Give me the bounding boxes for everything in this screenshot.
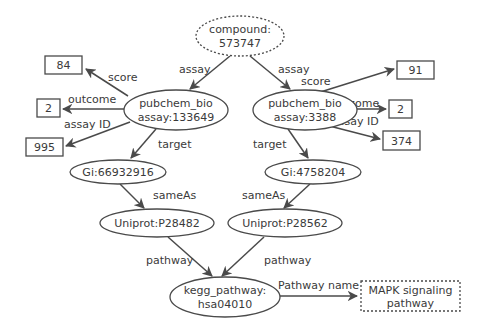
left-uniprot-label: Uniprot:P28482 [114,217,200,230]
left-assay-id-value: 995 [34,141,55,154]
label-score-right: score [301,75,331,88]
node-right-score: 91 [397,61,434,79]
right-score-value: 91 [409,64,423,77]
right-assay-id: assay:3388 [274,111,336,124]
label-pathway-left: pathway [146,254,194,267]
node-pathway-name: MAPK signaling pathway [361,281,460,311]
compound-id: 573747 [219,37,261,50]
label-assay-id-left: assay ID [64,118,111,131]
node-left-assay-id: 995 [26,138,63,156]
node-kegg-pathway: kegg_pathway: hsa04010 [170,277,280,317]
label-same-as-left: sameAs [153,189,196,202]
right-outcome-value: 2 [397,103,404,116]
node-left-score: 84 [45,56,82,74]
label-same-as-right: sameAs [242,189,285,202]
node-left-outcome: 2 [37,99,60,117]
knowledge-graph-diagram: assay assay score outcome assay ID score… [0,0,482,332]
right-assay-source: pubchem_bio [268,97,342,110]
right-gi-label: Gi:4758204 [281,166,345,179]
node-right-outcome: 2 [389,100,412,118]
node-compound: compound: 573747 [196,16,284,56]
node-right-gi: Gi:4758204 [265,160,361,184]
left-score-value: 84 [57,59,71,72]
left-assay-source: pubchem_bio [139,97,213,110]
label-assay-left: assay [179,63,211,76]
label-pathway-right: pathway [264,254,312,267]
left-gi-label: Gi:66932916 [82,166,153,179]
node-left-assay: pubchem_bio assay:133649 [124,90,228,130]
right-assay-id-value: 374 [391,135,412,148]
compound-label: compound: [209,23,271,36]
right-uniprot-label: Uniprot:P28562 [242,217,328,230]
edge-same-as-left [120,184,144,208]
node-left-uniprot: Uniprot:P28482 [100,209,214,237]
kegg-label: kegg_pathway: [184,284,266,297]
node-right-uniprot: Uniprot:P28562 [228,209,342,237]
label-target-left: target [158,138,192,151]
node-right-assay-id: 374 [383,131,420,150]
node-right-assay: pubchem_bio assay:3388 [253,90,357,130]
edge-same-as-right [284,184,310,208]
label-pathway-name: Pathway name [278,279,359,292]
label-outcome-left: outcome [68,93,117,106]
edge-target-left [131,129,156,158]
left-outcome-value: 2 [45,102,52,115]
pathway-name-line2: pathway [387,297,435,310]
pathway-name-line1: MAPK signaling [369,284,453,297]
edge-target-right [288,129,308,158]
label-score-left: score [108,71,138,84]
label-target-right: target [253,138,287,151]
node-left-gi: Gi:66932916 [70,160,166,184]
kegg-id: hsa04010 [198,298,252,311]
left-assay-id: assay:133649 [138,111,214,124]
edge-pathway-right [222,237,264,276]
